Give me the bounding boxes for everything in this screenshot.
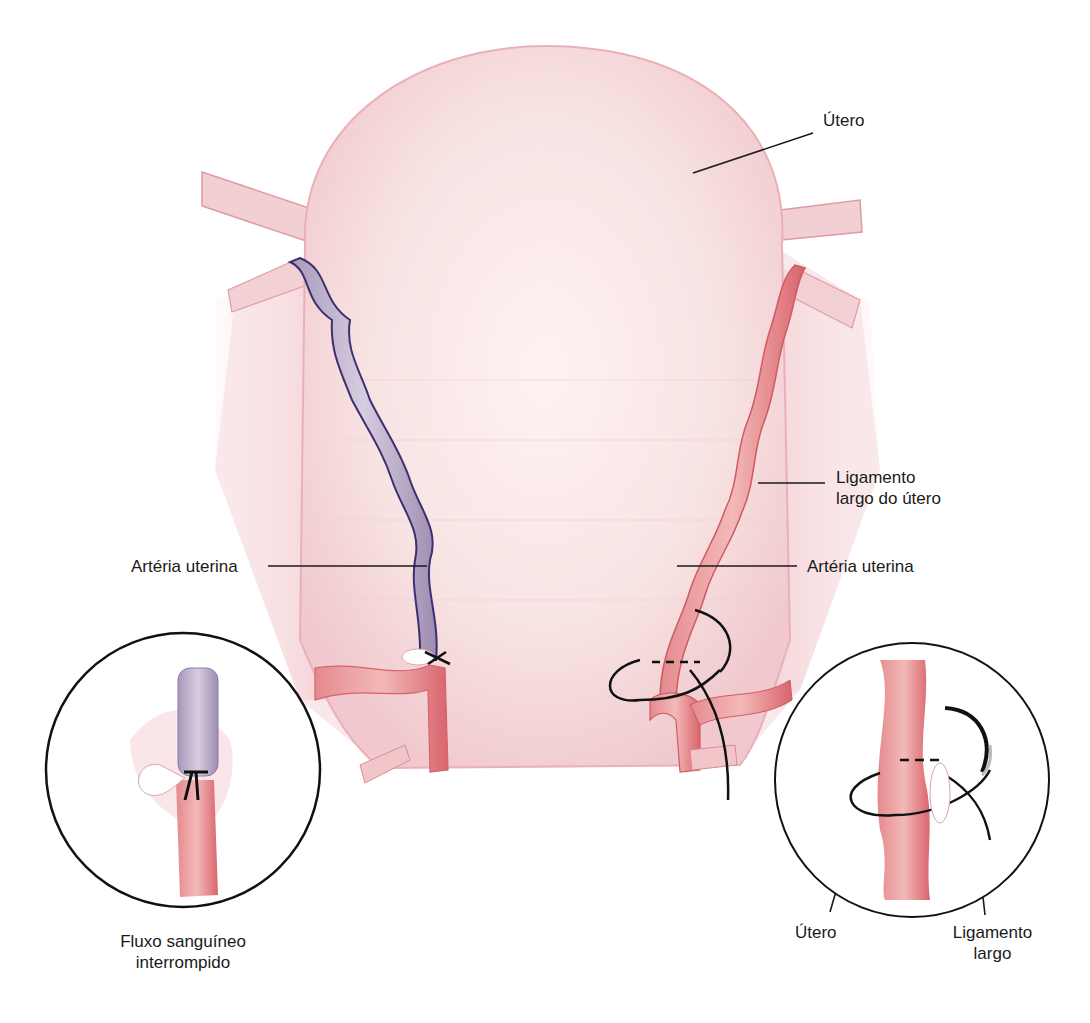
- label-blood-flow-interrupted: Fluxo sanguíneo interrompido: [98, 931, 268, 973]
- label-inset-broad-ligament: Ligamento largo: [945, 922, 1040, 964]
- label-blood-flow-line1: Fluxo sanguíneo: [98, 931, 268, 952]
- label-inset-ligament-line1: Ligamento: [945, 922, 1040, 943]
- label-broad-ligament-line1: Ligamento: [836, 467, 941, 488]
- label-broad-ligament-line2: largo do útero: [836, 488, 941, 509]
- label-uterine-artery-left: Artéria uterina: [131, 556, 238, 577]
- label-inset-uterus: Útero: [795, 922, 837, 943]
- label-blood-flow-line2: interrompido: [98, 952, 268, 973]
- label-uterus: Útero: [823, 110, 865, 131]
- label-broad-ligament: Ligamento largo do útero: [836, 467, 941, 509]
- left-inset-ligated: [46, 633, 320, 907]
- uterine-artery-ligation-illustration: [0, 0, 1090, 1023]
- label-inset-ligament-line2: largo: [945, 943, 1040, 964]
- label-uterine-artery-right: Artéria uterina: [807, 556, 914, 577]
- right-inset-suture: [775, 643, 1049, 917]
